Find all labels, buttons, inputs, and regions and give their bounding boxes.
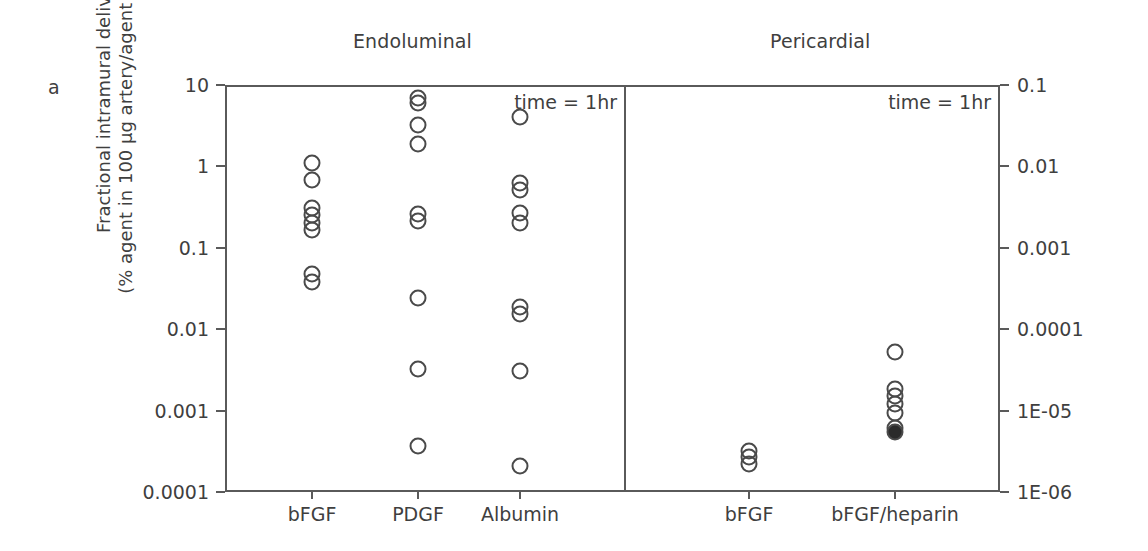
y-tick-right: [1000, 491, 1009, 493]
y-tick-label-right: 0.0001: [1017, 320, 1083, 339]
data-point-filled: [887, 423, 904, 440]
data-point: [512, 108, 529, 125]
y-tick-label-right: 1E-06: [1017, 483, 1072, 502]
y-tick-left: [216, 165, 225, 167]
axis-bottom-border: [225, 490, 1000, 492]
axis-right-spine: [998, 85, 1000, 492]
y-tick-label-left: 0.01: [167, 320, 209, 339]
y-tick-label-left: 0.1: [179, 238, 209, 257]
y-tick-right: [1000, 247, 1009, 249]
data-point: [304, 274, 321, 291]
data-point: [512, 457, 529, 474]
y-tick-right: [1000, 410, 1009, 412]
data-point: [410, 135, 427, 152]
data-point: [304, 222, 321, 239]
data-point: [410, 212, 427, 229]
x-axis-category-label: Albumin: [481, 503, 559, 525]
y-tick-label-right: 0.1: [1017, 76, 1047, 95]
y-tick-left: [216, 491, 225, 493]
y-tick-left: [216, 84, 225, 86]
x-tick: [311, 490, 313, 499]
x-axis-category-label: bFGF/heparin: [831, 503, 959, 525]
y-tick-left: [216, 410, 225, 412]
plot-area: 1010.10.010.0010.0001 0.10.010.0010.0001…: [225, 85, 1000, 492]
data-point: [410, 117, 427, 134]
axis-top-border: [225, 85, 1000, 87]
x-axis-category-label: PDGF: [392, 503, 444, 525]
annotation-pericardial: time = 1hr: [888, 91, 991, 113]
y-tick-right: [1000, 328, 1009, 330]
y-tick-left: [216, 247, 225, 249]
data-point: [410, 437, 427, 454]
x-tick: [519, 490, 521, 499]
data-point: [304, 155, 321, 172]
y-tick-label-right: 0.001: [1017, 238, 1071, 257]
y-tick-label-left: 1: [197, 157, 209, 176]
x-axis-category-label: bFGF: [725, 503, 774, 525]
y-tick-label-right: 1E-05: [1017, 401, 1072, 420]
panel-title-endoluminal: Endoluminal: [353, 30, 472, 52]
y-tick-label-right: 0.01: [1017, 157, 1059, 176]
axis-left-spine: [225, 85, 227, 492]
panel-divider: [624, 85, 626, 492]
figure-letter: a: [48, 76, 60, 98]
figure-panel-a: a Endoluminal Pericardial Fractional int…: [0, 0, 1148, 551]
data-point: [512, 305, 529, 322]
x-axis-category-label: bFGF: [288, 503, 337, 525]
data-point: [512, 362, 529, 379]
y-tick-right: [1000, 84, 1009, 86]
data-point: [512, 215, 529, 232]
y-axis-title-line2: (% agent in 100 µg artery/agent delivere…: [115, 0, 138, 294]
data-point: [410, 361, 427, 378]
data-point: [741, 456, 758, 473]
x-tick: [894, 490, 896, 499]
panel-title-pericardial: Pericardial: [770, 30, 871, 52]
y-tick-label-left: 0.001: [155, 401, 209, 420]
y-tick-label-left: 0.0001: [143, 483, 209, 502]
x-tick: [748, 490, 750, 499]
data-point: [512, 181, 529, 198]
y-axis-title-line1: Fractional intramural delivery: [93, 0, 116, 294]
y-tick-label-left: 10: [185, 76, 209, 95]
data-point: [887, 344, 904, 361]
data-point: [410, 95, 427, 112]
y-tick-left: [216, 328, 225, 330]
y-tick-right: [1000, 165, 1009, 167]
data-point: [410, 290, 427, 307]
y-axis-title: Fractional intramural delivery (% agent …: [85, 0, 145, 310]
x-tick: [417, 490, 419, 499]
data-point: [304, 172, 321, 189]
annotation-endoluminal: time = 1hr: [514, 91, 617, 113]
